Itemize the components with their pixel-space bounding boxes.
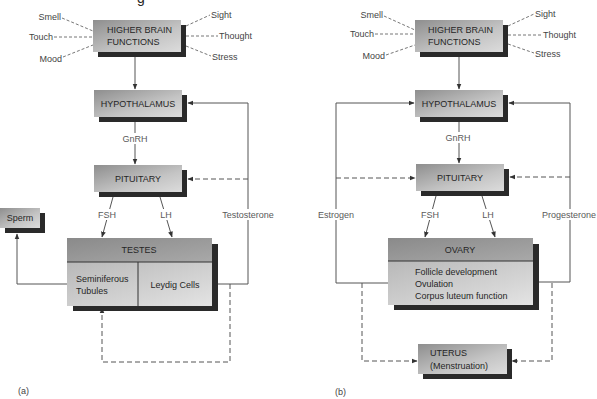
lh-label-a: LH [160, 210, 172, 220]
sperm-box: Sperm [0, 208, 45, 233]
fsh-label-b: FSH [421, 210, 439, 220]
input-thought-b: Thought [543, 30, 577, 40]
higher-brain-box-b: HIGHER BRAIN FUNCTIONS [415, 20, 508, 57]
higher-brain-box-a: HIGHER BRAIN FUNCTIONS [93, 20, 186, 57]
pituitary-label-b: PITUITARY [437, 173, 483, 183]
hypothalamus-box-b: HYPOTHALAMUS [415, 90, 508, 122]
panel-a-label: (a) [18, 386, 29, 396]
hypothalamus-label-a: HYPOTHALAMUS [101, 99, 176, 109]
higher-brain-line1-a: HIGHER BRAIN [107, 25, 172, 35]
sperm-label: Sperm [7, 213, 34, 223]
uterus-label: UTERUS [430, 348, 467, 358]
input-touch-a: Touch [29, 32, 53, 42]
input-thought-a: Thought [219, 31, 253, 41]
pituitary-box-a: PITUITARY [94, 165, 187, 197]
hypothalamus-box-a: HYPOTHALAMUS [94, 90, 187, 122]
pituitary-label-a: PITUITARY [115, 174, 161, 184]
input-smell-b: Smell [360, 10, 383, 20]
panel-a-male: Smell Touch Mood Sight Thought Stress Gn… [0, 10, 275, 396]
hypothalamus-label-b: HYPOTHALAMUS [422, 99, 497, 109]
lh-label-b: LH [482, 210, 494, 220]
input-stress-b: Stress [535, 49, 561, 59]
panel-b-female: Smell Touch Mood Sight Thought Stress Gn… [318, 9, 597, 397]
testes-box: TESTES Seminiferous Tubules Leydig Cells [67, 238, 218, 311]
input-touch-b: Touch [350, 29, 374, 39]
fsh-label-a: FSH [98, 210, 116, 220]
higher-brain-line2-a: FUNCTIONS [107, 37, 160, 47]
estrogen-label: Estrogen [318, 210, 354, 220]
higher-brain-line2-b: FUNCTIONS [428, 37, 481, 47]
hormone-feedback-diagram: g Smell Touch Mood Sight Thought Stress … [0, 0, 597, 399]
input-mood-b: Mood [362, 51, 385, 61]
input-sight-b: Sight [535, 9, 556, 19]
input-mood-a: Mood [39, 54, 62, 64]
title-fragment: g [137, 0, 145, 6]
leydig-cells-label: Leydig Cells [150, 280, 200, 290]
input-smell-a: Smell [38, 12, 61, 22]
seminiferous-line1: Seminiferous [76, 274, 129, 284]
panel-b-label: (b) [335, 387, 346, 397]
seminiferous-line2: Tubules [76, 286, 108, 296]
ovary-function-corpus-luteum: Corpus luteum function [415, 291, 508, 301]
progesterone-label: Progesterone [542, 210, 596, 220]
ovary-box: OVARY Follicle development Ovulation Cor… [388, 238, 539, 310]
uterus-box: UTERUS (Menstruation) [418, 344, 512, 379]
ovary-function-ovulation: Ovulation [415, 279, 453, 289]
gnrh-label-a: GnRH [122, 134, 147, 144]
input-stress-a: Stress [212, 52, 238, 62]
ovary-label: OVARY [445, 245, 476, 255]
testes-label: TESTES [121, 245, 156, 255]
gnrh-label-b: GnRH [445, 133, 470, 143]
ovary-function-follicle: Follicle development [415, 267, 498, 277]
testosterone-label: Testosterone [222, 210, 274, 220]
menstruation-label: (Menstruation) [430, 361, 488, 371]
pituitary-box-b: PITUITARY [416, 164, 509, 196]
input-sight-a: Sight [211, 10, 232, 20]
higher-brain-line1-b: HIGHER BRAIN [428, 25, 493, 35]
